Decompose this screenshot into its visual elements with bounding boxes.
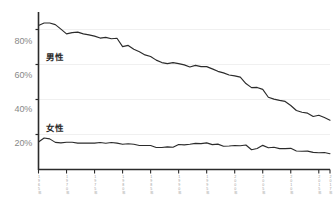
x-axis-tick-label: 2015年 (317, 175, 321, 195)
series-line-male (39, 23, 331, 120)
x-axis-tick-label: 1990年 (177, 175, 181, 195)
chart-plot-area (0, 0, 333, 212)
x-axis-tick-label: 2005年 (261, 175, 265, 195)
x-axis-tick-label: 2017年 (328, 175, 332, 195)
x-axis-tick-label: 1995年 (205, 175, 209, 195)
gridlines (36, 30, 331, 135)
x-axis-tick-label: 2000年 (233, 175, 237, 195)
series-line-female (39, 138, 331, 154)
x-axis-tick-label: 1980年 (121, 175, 125, 195)
x-axis-tick-label: 1970年 (65, 175, 69, 195)
smoking-rate-chart: 80% 60% 40% 20% 男性 女性 1965年1970年1975年198… (0, 0, 333, 212)
x-axis-tick-label: 2010年 (289, 175, 293, 195)
x-axis-tick-label: 1985年 (149, 175, 153, 195)
x-axis-tick-label: 1965年 (37, 175, 41, 195)
x-axis-tick-label: 1975年 (93, 175, 97, 195)
